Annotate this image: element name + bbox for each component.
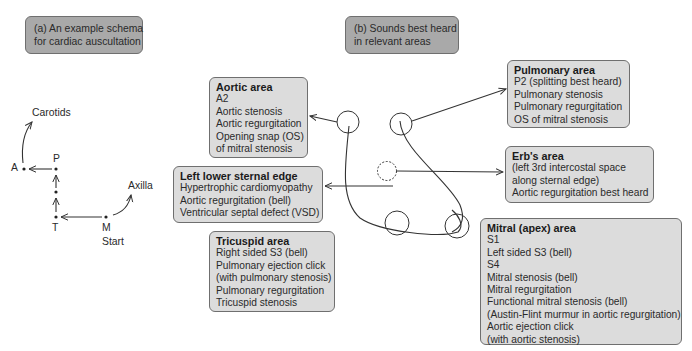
aortic-area-circle — [337, 111, 359, 133]
pulmonary-area-circle — [390, 113, 412, 135]
point-mid-dot — [54, 190, 57, 193]
point-a-dot — [22, 167, 25, 170]
pulmonary-connector — [412, 89, 506, 121]
aortic-connector — [310, 116, 337, 122]
point-t-dot — [54, 215, 57, 218]
point-m-dot — [104, 215, 107, 218]
aortic-to-mitral-curve — [345, 126, 461, 234]
point-p-dot — [54, 167, 57, 170]
erbs-area-circle — [378, 162, 397, 181]
auscultation-path — [22, 122, 131, 219]
pulmonary-to-mitral-curve — [400, 121, 462, 232]
erbs-connector — [397, 171, 503, 172]
diagram-connectors — [0, 0, 692, 351]
